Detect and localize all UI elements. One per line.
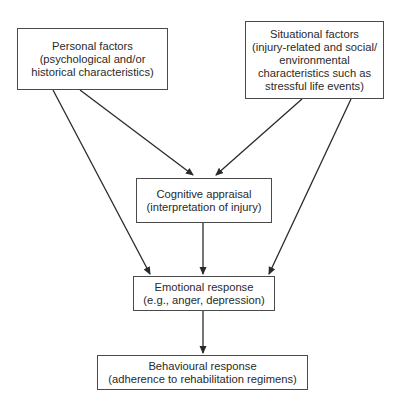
node-line: environmental xyxy=(279,54,349,67)
arrow-personal-to-cognitive xyxy=(80,90,193,175)
node-line: (interpretation of injury) xyxy=(146,201,261,214)
node-line: (injury-related and social/ xyxy=(252,41,377,54)
node-line: characteristics such as xyxy=(258,67,371,80)
personal-factors-node: Personal factors (psychological and/or h… xyxy=(17,28,168,90)
node-line: (psychological and/or xyxy=(40,53,146,66)
behavioural-response-node: Behavioural response (adherence to rehab… xyxy=(97,355,308,390)
arrow-situational-to-cognitive xyxy=(216,99,302,175)
cognitive-appraisal-node: Cognitive appraisal (interpretation of i… xyxy=(136,178,272,223)
node-title: Emotional response xyxy=(155,281,254,294)
situational-factors-node: Situational factors (injury-related and … xyxy=(245,21,384,99)
node-title: Situational factors xyxy=(270,28,359,41)
node-title: Personal factors xyxy=(52,40,133,53)
node-line: (adherence to rehabilitation regimens) xyxy=(108,373,296,386)
arrow-situational-to-emotional xyxy=(269,99,351,274)
node-title: Cognitive appraisal xyxy=(156,188,251,201)
node-title: Behavioural response xyxy=(148,360,256,373)
emotional-response-node: Emotional response (e.g., anger, depress… xyxy=(133,276,275,311)
node-line: (e.g., anger, depression) xyxy=(143,294,264,307)
node-line: historical characteristics) xyxy=(31,66,153,79)
node-line: stressful life events) xyxy=(265,80,364,93)
